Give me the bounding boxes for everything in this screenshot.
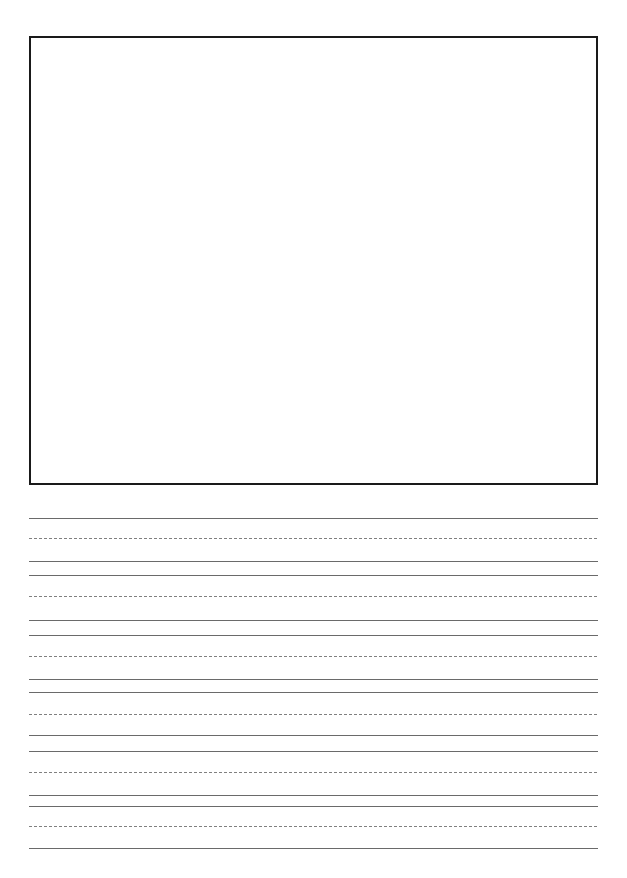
writing-line-1-mid-dashed-line	[29, 538, 598, 539]
writing-line-4-top-solid-line	[29, 692, 598, 693]
writing-line-5-base-solid-line	[29, 795, 598, 796]
writing-line-5-mid-dashed-line	[29, 772, 598, 773]
writing-line-6-base-solid-line	[29, 848, 598, 849]
writing-line-4-mid-dashed-line	[29, 714, 598, 715]
writing-line-3-top-solid-line	[29, 635, 598, 636]
writing-line-6-mid-dashed-line	[29, 826, 598, 827]
writing-line-4-base-solid-line	[29, 735, 598, 736]
writing-line-5-top-solid-line	[29, 751, 598, 752]
writing-line-3-base-solid-line	[29, 679, 598, 680]
writing-line-1-base-solid-line	[29, 561, 598, 562]
writing-line-3-mid-dashed-line	[29, 656, 598, 657]
writing-line-1-top-solid-line	[29, 518, 598, 519]
writing-line-2-top-solid-line	[29, 575, 598, 576]
writing-lines-area	[29, 0, 598, 878]
writing-line-2-mid-dashed-line	[29, 596, 598, 597]
writing-line-2-base-solid-line	[29, 620, 598, 621]
writing-line-6-top-solid-line	[29, 806, 598, 807]
worksheet-page	[0, 0, 627, 878]
